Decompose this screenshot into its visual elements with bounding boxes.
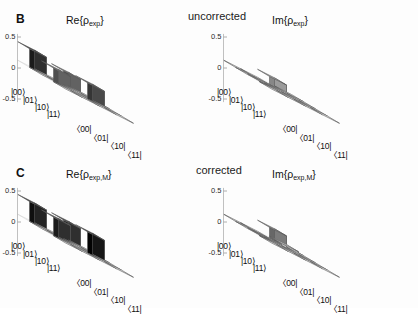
ket-axis-label: |11⟩ [253, 263, 267, 273]
subplot-im-rho-exp-m: Im{ρexp,M} 0.50-0.5|00⟩|01⟩|10⟩|11⟩〈00|〈… [212, 162, 412, 302]
z-tick-label: 0 [200, 217, 222, 226]
z-tick-label: 0.5 [0, 186, 16, 195]
plot-area-re-exp-m: 0.50-0.5|00⟩|01⟩|10⟩|11⟩〈00|〈01|〈10|〈11| [16, 176, 206, 302]
bar3d-canvas-im-exp-m [222, 176, 412, 302]
bar3d-canvas-re-exp-m [16, 176, 206, 302]
z-tick-label: 0.5 [0, 32, 16, 41]
ket-axis-label: |11⟩ [47, 263, 61, 273]
ket-axis-label: |11⟩ [47, 109, 61, 119]
ket-axis-label: |11⟩ [253, 109, 267, 119]
subplot-re-rho-exp-m: Re{ρexp,M} 0.50-0.5|00⟩|01⟩|10⟩|11⟩〈00|〈… [6, 162, 206, 302]
z-tick-label: 0 [0, 217, 16, 226]
z-tick-label: 0.5 [200, 32, 222, 41]
bra-axis-label: 〈11| [123, 302, 142, 314]
bar3d-canvas-re-exp [16, 22, 206, 148]
subplot-re-rho-exp: Re{ρexp} 0.50-0.5|00⟩|01⟩|10⟩|11⟩〈00|〈01… [6, 8, 206, 148]
subplot-im-rho-exp: Im{ρexp} 0.50-0.5|00⟩|01⟩|10⟩|11⟩〈00|〈01… [212, 8, 412, 148]
z-tick-label: 0.5 [200, 186, 222, 195]
plot-area-re-exp: 0.50-0.5|00⟩|01⟩|10⟩|11⟩〈00|〈01|〈10|〈11| [16, 22, 206, 148]
plot-area-im-exp: 0.50-0.5|00⟩|01⟩|10⟩|11⟩〈00|〈01|〈10|〈11| [222, 22, 412, 148]
panel-c: C corrected Re{ρexp,M} 0.50-0.5|00⟩|01⟩|… [0, 154, 418, 308]
panel-b: B uncorrected Re{ρexp} 0.50-0.5|00⟩|01⟩|… [0, 0, 418, 154]
z-tick-label: 0 [200, 63, 222, 72]
bra-axis-label: 〈11| [329, 302, 348, 314]
plot-area-im-exp-m: 0.50-0.5|00⟩|01⟩|10⟩|11⟩〈00|〈01|〈10|〈11| [222, 176, 412, 302]
z-tick-label: 0 [0, 63, 16, 72]
bar3d-canvas-im-exp [222, 22, 412, 148]
